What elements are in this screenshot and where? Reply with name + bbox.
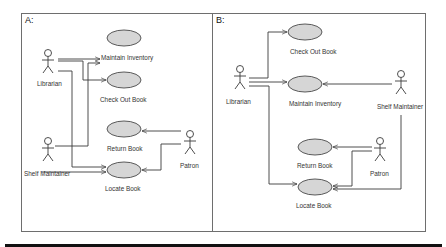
panel-a-label: A: bbox=[25, 15, 34, 25]
assoc-librarian-check-out-book-b bbox=[249, 32, 287, 78]
assoc-shelf-maintainer-locate-book-b bbox=[333, 115, 401, 189]
panel-b-label: B: bbox=[216, 15, 225, 25]
panel-b: B: Check Out Book Maintain Inventory Ret… bbox=[213, 14, 426, 232]
actor-label-shelf-maintainer-a: Shelf Maintainer bbox=[24, 170, 71, 177]
use-case-label-locate-book-a: Locate Book bbox=[105, 185, 141, 192]
actor-shelf-maintainer-b bbox=[395, 71, 407, 95]
actor-librarian-b bbox=[234, 66, 246, 90]
use-case-check-out-book-b bbox=[288, 24, 322, 40]
use-case-check-out-book-a bbox=[107, 72, 141, 88]
use-case-label-maintain-inventory-b: Maintain Inventory bbox=[289, 100, 342, 108]
use-case-label-check-out-book-a: Check Out Book bbox=[100, 96, 147, 103]
assoc-patron-locate-book-a bbox=[142, 144, 181, 170]
actor-label-librarian-b: Librarian bbox=[226, 98, 251, 105]
actor-shelf-maintainer-a bbox=[42, 138, 54, 162]
use-case-label-check-out-book-b: Check Out Book bbox=[290, 48, 337, 55]
assoc-patron-locate-book-b bbox=[333, 151, 372, 186]
actor-label-shelf-maintainer-b: Shelf Maintainer bbox=[377, 103, 424, 110]
use-case-diagram-comparison: A: Maintain Inventory Check Out Book Ret… bbox=[0, 0, 446, 247]
use-case-locate-book-a bbox=[107, 162, 141, 178]
actor-librarian-a bbox=[42, 50, 54, 74]
use-case-return-book-a bbox=[107, 121, 141, 137]
use-case-label-return-book-b: Return Book bbox=[297, 162, 333, 169]
panel-a: A: Maintain Inventory Check Out Book Ret… bbox=[22, 14, 213, 232]
use-case-maintain-inventory-b bbox=[288, 76, 322, 92]
actor-label-librarian-a: Librarian bbox=[37, 80, 62, 87]
use-case-label-maintain-inventory-a: Maintain Inventory bbox=[101, 54, 154, 62]
assoc-shelf-maintainer-maintain-inventory-a bbox=[55, 63, 100, 146]
actor-patron-b bbox=[374, 138, 386, 162]
actor-label-patron-a: Patron bbox=[180, 162, 199, 169]
assoc-librarian-locate-book-a bbox=[58, 71, 106, 167]
use-case-label-locate-book-b: Locate Book bbox=[296, 202, 332, 209]
use-case-label-return-book-a: Return Book bbox=[107, 145, 143, 152]
actor-patron-a bbox=[184, 131, 196, 155]
actor-label-patron-b: Patron bbox=[370, 170, 389, 177]
use-case-maintain-inventory-a bbox=[107, 30, 141, 46]
use-case-locate-book-b bbox=[298, 179, 332, 195]
assoc-librarian-check-out-book-a bbox=[58, 61, 106, 80]
panel-b-border bbox=[213, 14, 426, 232]
use-case-return-book-b bbox=[298, 139, 332, 155]
